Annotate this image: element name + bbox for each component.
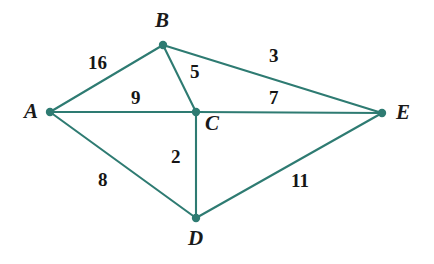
node-label-b: B: [155, 10, 169, 31]
edge-weight-label: 7: [269, 88, 279, 107]
graph-edge: [196, 112, 382, 113]
edge-weight-label: 16: [88, 53, 107, 72]
graph-node-a: [46, 108, 54, 116]
node-label-c: C: [205, 113, 219, 134]
graph-edge: [196, 113, 382, 218]
node-label-d: D: [188, 228, 203, 249]
graph-node-c: [192, 108, 200, 116]
weighted-graph-diagram: ABCDE 1698537211: [0, 0, 434, 264]
edge-weight-label: 2: [171, 147, 181, 166]
edge-weight-label: 9: [131, 88, 141, 107]
graph-node-b: [159, 41, 167, 49]
edge-weight-label: 3: [269, 46, 279, 65]
graph-node-d: [192, 214, 200, 222]
node-label-e: E: [396, 102, 410, 123]
edge-weight-label: 5: [190, 62, 200, 81]
graph-node-e: [378, 109, 386, 117]
edge-weight-label: 11: [291, 171, 309, 190]
node-label-a: A: [24, 101, 38, 122]
edge-weight-label: 8: [98, 170, 108, 189]
